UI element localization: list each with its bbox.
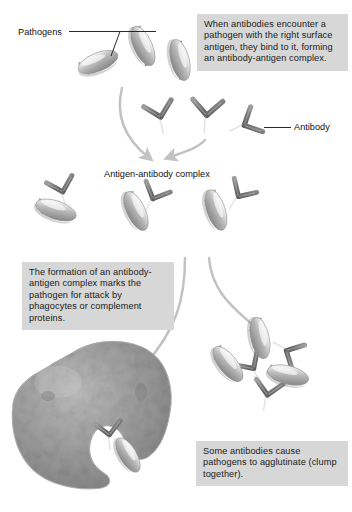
stage-free-pathogens: [69, 21, 194, 84]
pathogen: [123, 21, 161, 72]
antigen-antibody-complex: [31, 175, 81, 228]
antigen-antibody-complex: [197, 178, 256, 234]
antigen-antibody-complex: [115, 181, 170, 235]
callout-binding: When antibodies encounter a pathogen wit…: [197, 14, 348, 71]
agglutinated-pathogen: [263, 361, 311, 392]
stage-antigen-antibody-complexes: [31, 175, 257, 235]
label-antibody: Antibody: [294, 122, 330, 133]
stage-phagocytosis: [12, 341, 171, 488]
antibody: [223, 107, 263, 145]
label-pathogens: Pathogens: [18, 27, 62, 38]
antibody: [191, 99, 223, 135]
immunology-diagram: When antibodies encounter a pathogen wit…: [0, 0, 352, 512]
phagocyte: [12, 341, 171, 488]
stage-agglutination: [204, 314, 311, 414]
stage-free-antibodies: [144, 99, 291, 145]
diagram-artwork: [0, 0, 352, 512]
pathogen: [74, 45, 123, 81]
label-antigen-antibody-complex: Antigen-antibody complex: [104, 169, 210, 180]
antibody: [144, 100, 179, 138]
pathogen: [163, 36, 194, 84]
callout-agglutination: Some antibodies cause pathogens to agglu…: [196, 441, 348, 486]
callout-phagocyte: The formation of an antibody-antigen com…: [22, 262, 174, 330]
